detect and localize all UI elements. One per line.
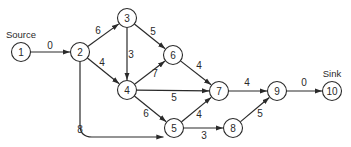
node-8: 8 (224, 119, 243, 138)
edge-weight-4-6: 7 (152, 68, 158, 79)
edge-weight-4-5: 6 (143, 108, 149, 119)
node-label: 1 (18, 47, 24, 58)
edge-weight-2-5: 8 (77, 124, 83, 135)
node-9: 9 (268, 82, 287, 101)
network-svg: 064835756443450 12345678910 Source Sink (0, 0, 351, 147)
sink-label: Sink (323, 68, 342, 79)
edge-weight-3-6: 5 (150, 26, 156, 37)
edge-weight-2-4: 4 (99, 57, 105, 68)
edge-weight-6-7: 4 (196, 60, 202, 71)
edge-weight-1-2: 0 (47, 40, 53, 51)
edge-weight-4-7: 5 (171, 92, 177, 103)
node-4: 4 (118, 81, 137, 100)
node-2: 2 (71, 43, 90, 62)
network-diagram: 064835756443450 12345678910 Source Sink (0, 0, 351, 147)
node-label: 7 (216, 86, 222, 97)
edge-weight-5-8: 3 (201, 130, 207, 141)
node-label: 3 (124, 13, 130, 24)
node-5: 5 (165, 119, 184, 138)
edge-4-to-6 (135, 61, 165, 84)
node-label: 8 (230, 123, 236, 134)
edge-4-to-5 (134, 96, 166, 122)
edge-2-to-3 (88, 24, 119, 47)
node-7: 7 (210, 82, 229, 101)
edge-weight-8-9: 5 (257, 108, 263, 119)
edge-weight-3-4: 3 (128, 49, 134, 60)
edge-weight-9-10: 0 (301, 77, 307, 88)
edge-2-to-5 (80, 62, 164, 138)
node-label: 5 (171, 123, 177, 134)
node-6: 6 (164, 46, 183, 65)
node-label: 6 (170, 50, 176, 61)
source-label: Source (6, 29, 36, 40)
edge-8-to-9 (240, 97, 269, 121)
nodes-layer: 12345678910 (12, 9, 342, 138)
node-label: 2 (77, 47, 83, 58)
node-label: 10 (326, 86, 338, 97)
edge-weight-7-9: 4 (244, 77, 250, 88)
node-label: 4 (124, 85, 130, 96)
edge-weight-5-7: 4 (196, 109, 202, 120)
node-label: 9 (274, 86, 280, 97)
node-1: 1 (12, 43, 31, 62)
edge-weight-2-3: 6 (95, 25, 101, 36)
node-3: 3 (118, 9, 137, 28)
node-10: 10 (323, 82, 342, 101)
